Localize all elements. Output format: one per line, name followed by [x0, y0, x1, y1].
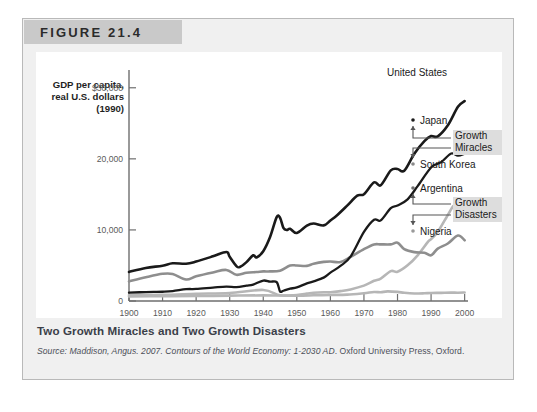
x-tick-label: 1960 — [321, 308, 340, 318]
growth-disasters-label-line-1: Growth — [455, 197, 487, 208]
y-tick-label: 10,000 — [97, 225, 124, 235]
series-label-nigeria: Nigeria — [420, 226, 452, 237]
figure-source-suffix: . Oxford University Press, Oxford. — [335, 346, 465, 356]
chart-panel: GDP per capita, real U.S. dollars (1990)… — [36, 52, 502, 318]
figure-source-prefix: Source: Maddison, Angus. 2007. — [37, 346, 165, 356]
x-tick-label: 1950 — [287, 308, 306, 318]
figure-card: FIGURE 21.4 GDP per capita, real U.S. do… — [22, 18, 514, 380]
growth-miracles-label-line-2: Miracles — [455, 142, 492, 153]
caption-block: Two Growth Miracles and Two Growth Disas… — [37, 324, 501, 356]
gdp-per-capita-line-chart: GDP per capita, real U.S. dollars (1990)… — [36, 52, 502, 318]
y-tick-label: 0 — [118, 296, 123, 306]
y-tick-label: $30,000 — [92, 83, 123, 93]
series-label-argentina: Argentina — [420, 183, 463, 194]
south-korea-leader-dot — [411, 162, 415, 166]
figure-number-label: FIGURE 21.4 — [24, 25, 142, 40]
x-tick-label: 1920 — [187, 308, 206, 318]
series-line-south-korea — [129, 199, 465, 296]
x-tick-label: 1930 — [220, 308, 239, 318]
series-paths-group — [129, 101, 465, 296]
figure-source-title: Contours of the World Economy: 1-2030 AD — [165, 346, 334, 356]
nigeria-leader-dot — [411, 229, 415, 233]
y-tick-label: 20,000 — [97, 154, 124, 164]
figure-caption: Two Growth Miracles and Two Growth Disas… — [37, 324, 501, 337]
x-tick-label: 1900 — [119, 308, 138, 318]
x-tick-label: 1910 — [153, 308, 172, 318]
growth-disasters-label-line-2: Disasters — [455, 209, 497, 220]
x-tick-label: 1990 — [422, 308, 441, 318]
argentina-leader-dot — [411, 186, 415, 190]
figure-source: Source: Maddison, Angus. 2007. Contours … — [37, 346, 501, 356]
series-line-united-states — [129, 101, 465, 272]
x-tick-label: 2000 — [455, 308, 474, 318]
x-tick-label: 1940 — [254, 308, 273, 318]
y-axis-title-line-3: (1990) — [96, 103, 124, 114]
x-tick-label: 1970 — [354, 308, 373, 318]
series-label-japan: Japan — [420, 115, 447, 126]
growth-miracles-label-line-1: Growth — [455, 130, 487, 141]
japan-leader-dot — [411, 118, 415, 122]
series-label-united-states: United States — [387, 67, 447, 78]
x-axis-ticks: 1900191019201930194019501960197019801990… — [119, 294, 474, 318]
series-label-south-korea: South Korea — [420, 159, 476, 170]
x-tick-label: 1980 — [388, 308, 407, 318]
figure-number-band: FIGURE 21.4 — [24, 20, 182, 44]
